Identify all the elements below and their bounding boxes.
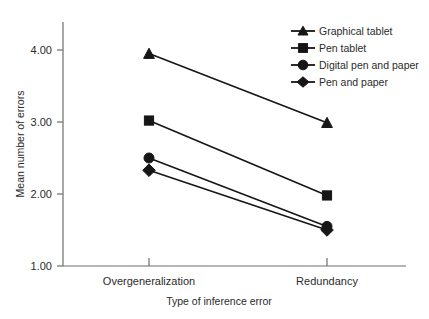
legend-label-pen-and-paper: Pen and paper <box>319 76 388 88</box>
legend-item-pen-tablet[interactable]: Pen tablet <box>291 42 366 54</box>
legend-label-digital-pen-and-paper: Digital pen and paper <box>319 59 419 71</box>
legend-label-graphical-tablet: Graphical tablet <box>319 25 393 37</box>
y-axis-title: Mean number of errors <box>14 91 26 198</box>
series-line-pen-and-paper <box>149 170 327 230</box>
legend-label-pen-tablet: Pen tablet <box>319 42 366 54</box>
x-tick-label-redundancy: Redundancy <box>296 275 358 287</box>
y-tick-label-2: 2.00 <box>31 188 52 200</box>
legend-item-graphical-tablet[interactable]: Graphical tablet <box>291 25 393 37</box>
series-line-pen-tablet <box>149 121 327 196</box>
line-chart: 4.00 3.00 2.00 1.00 Overgeneralization R… <box>0 0 429 319</box>
y-tick-label-1: 1.00 <box>31 260 52 272</box>
legend: Graphical tablet Pen tablet Digital pen … <box>291 25 419 88</box>
y-tick-label-4: 4.00 <box>31 44 52 56</box>
data-point-pen-and-paper-overgeneralization <box>143 164 156 177</box>
y-tick-label-3: 3.00 <box>31 116 52 128</box>
series-line-digital-pen-and-paper <box>149 158 327 226</box>
x-tick-label-overgeneralization: Overgeneralization <box>103 275 195 287</box>
x-axis-title: Type of inference error <box>166 295 272 307</box>
data-point-graphical-tablet-overgeneralization <box>144 48 155 58</box>
data-point-digital-pen-and-paper-overgeneralization <box>144 153 154 163</box>
data-point-pen-tablet-redundancy <box>322 191 331 200</box>
data-point-graphical-tablet-redundancy <box>322 117 333 127</box>
square-marker-icon <box>299 44 308 53</box>
legend-item-pen-and-paper[interactable]: Pen and paper <box>291 76 388 88</box>
circle-marker-icon <box>298 60 308 70</box>
chart-canvas: 4.00 3.00 2.00 1.00 Overgeneralization R… <box>0 0 429 319</box>
data-point-pen-tablet-overgeneralization <box>144 116 153 125</box>
diamond-marker-icon <box>297 77 309 87</box>
legend-item-digital-pen-and-paper[interactable]: Digital pen and paper <box>291 59 419 71</box>
